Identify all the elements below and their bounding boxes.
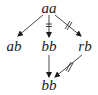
edge-aa-to-ab <box>18 15 43 36</box>
node-bb-bottom: bb <box>42 78 57 93</box>
node-aa: aa <box>42 1 57 16</box>
diagram-canvas: aa ab bb rb bb <box>0 0 98 95</box>
node-bb-middle: bb <box>42 39 57 54</box>
node-rb: rb <box>78 39 91 54</box>
node-ab: ab <box>7 39 22 54</box>
edge-aa-to-rb <box>55 15 81 36</box>
